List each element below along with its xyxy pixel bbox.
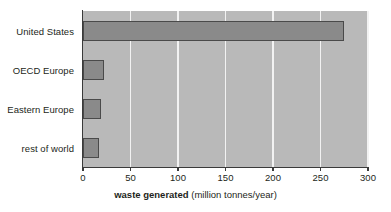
x-axis-tick-mark	[82, 167, 83, 171]
bar	[83, 138, 99, 158]
x-axis-tick-mark	[272, 167, 273, 171]
x-axis-tick-labels: 050100150200250300	[0, 172, 391, 185]
category-label: Eastern Europe	[7, 103, 74, 114]
x-axis-tick-label: 200	[265, 172, 281, 184]
category-label: United States	[16, 25, 74, 36]
x-axis-tick-label: 300	[360, 172, 376, 184]
x-axis-tick-label: 100	[170, 172, 186, 184]
bar	[83, 60, 104, 80]
x-axis-title-main: waste generated	[114, 189, 188, 200]
x-axis-tick-mark	[130, 167, 131, 171]
x-axis-title: waste generated (million tonnes/year)	[0, 189, 391, 201]
y-axis-line	[82, 10, 83, 170]
x-axis-title-units: (million tonnes/year)	[191, 189, 277, 200]
x-axis-tick-label: 0	[80, 172, 85, 184]
horizontal-bar-chart: United StatesOECD EuropeEastern Europere…	[0, 0, 391, 212]
x-axis-tick-label: 50	[125, 172, 136, 184]
gridline	[367, 11, 368, 167]
category-label: OECD Europe	[13, 64, 74, 75]
bar	[83, 99, 101, 119]
plot-area	[83, 11, 368, 167]
bar	[83, 21, 344, 41]
category-label: rest of world	[22, 142, 74, 153]
category-axis-labels: United StatesOECD EuropeEastern Europere…	[0, 11, 79, 167]
x-axis-tick-mark	[225, 167, 226, 171]
x-axis-tick-label: 250	[313, 172, 329, 184]
x-axis-tick-mark	[320, 167, 321, 171]
x-axis-tick-mark	[177, 167, 178, 171]
x-axis-tick-mark	[367, 167, 368, 171]
x-axis-tick-label: 150	[218, 172, 234, 184]
